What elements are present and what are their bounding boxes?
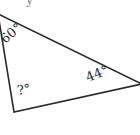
triangle-figure: y 60° ?° 44°	[0, 0, 140, 135]
triangle-diagram: y 60° ?° 44°	[0, 0, 140, 135]
angle-label-right: 44°	[84, 62, 111, 85]
angle-label-top: 60°	[0, 20, 25, 46]
angle-label-bottom: ?°	[16, 81, 32, 98]
cropped-caption: y	[25, 0, 34, 7]
